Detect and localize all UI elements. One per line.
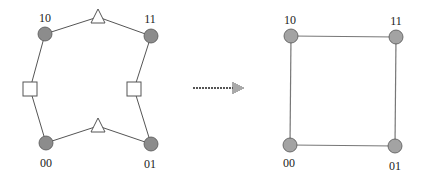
edge — [134, 36, 151, 89]
node-label: 01 — [389, 159, 401, 173]
node-label: 00 — [40, 156, 52, 170]
edge — [46, 126, 98, 143]
triangle-node-icon — [91, 118, 105, 132]
edge — [45, 17, 98, 34]
diagram-canvas: 10110001 10110001 — [0, 0, 424, 175]
node-label: 11 — [144, 12, 156, 26]
edge — [98, 17, 151, 36]
node-01 — [388, 139, 402, 153]
triangle-node-icon — [91, 9, 105, 23]
edge — [395, 37, 396, 146]
node-label: 10 — [39, 11, 51, 25]
edge — [30, 34, 45, 89]
transform-arrow — [193, 82, 243, 94]
node-00 — [283, 138, 297, 152]
square-node-icon — [127, 82, 141, 96]
node-label: 00 — [283, 156, 295, 170]
edge — [290, 145, 395, 146]
node-11 — [144, 29, 158, 43]
edge — [98, 126, 151, 144]
edge — [30, 89, 46, 143]
square-node-icon — [23, 82, 37, 96]
right-graph: 10110001 — [283, 13, 403, 173]
edge — [290, 36, 291, 145]
node-10 — [284, 29, 298, 43]
node-11 — [389, 30, 403, 44]
node-label: 01 — [144, 157, 156, 171]
edge — [291, 36, 396, 37]
node-label: 11 — [390, 14, 402, 28]
node-10 — [38, 27, 52, 41]
node-00 — [39, 136, 53, 150]
edge — [134, 89, 151, 144]
node-label: 10 — [284, 13, 296, 27]
left-graph: 10110001 — [23, 9, 158, 171]
node-01 — [144, 137, 158, 151]
